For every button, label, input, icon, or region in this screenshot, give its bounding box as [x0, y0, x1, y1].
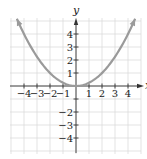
parabola-chart: x y −4−3−2−11234−4−3−21234 — [0, 0, 147, 159]
x-tick-label: −1 — [56, 88, 71, 99]
x-tick-label: 3 — [112, 88, 118, 99]
x-tick-label: 1 — [86, 88, 92, 99]
y-tick-label: 4 — [67, 29, 73, 40]
x-axis-arrow-icon — [137, 84, 144, 88]
y-tick-label: −4 — [58, 133, 73, 144]
x-tick-label: 2 — [99, 88, 105, 99]
y-tick-label: −2 — [58, 107, 73, 118]
y-tick-label: 2 — [67, 55, 73, 66]
y-axis-label: y — [72, 4, 80, 17]
y-tick-label: −3 — [58, 120, 73, 131]
axes: x y — [10, 4, 147, 153]
x-axis-label: x — [145, 79, 147, 92]
x-tick-label: 4 — [125, 88, 131, 99]
y-tick-label: 3 — [67, 42, 73, 53]
y-tick-label: 1 — [67, 68, 73, 79]
y-axis-arrow-icon — [74, 18, 78, 25]
